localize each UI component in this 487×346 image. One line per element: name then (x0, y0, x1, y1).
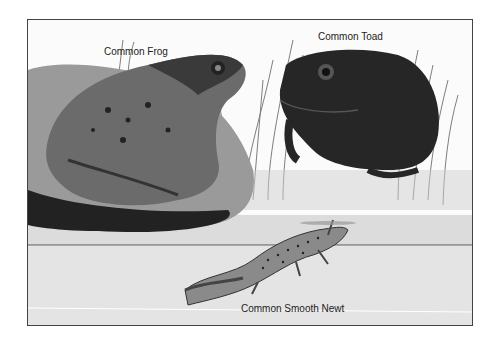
illustration-frame: Common Frog Common Toad Common Smooth Ne… (27, 19, 473, 326)
newt-label: Common Smooth Newt (241, 304, 344, 314)
amphibian-illustration (28, 20, 472, 325)
toad-label: Common Toad (318, 32, 383, 42)
toad (280, 50, 439, 175)
frog-label: Common Frog (104, 47, 168, 57)
